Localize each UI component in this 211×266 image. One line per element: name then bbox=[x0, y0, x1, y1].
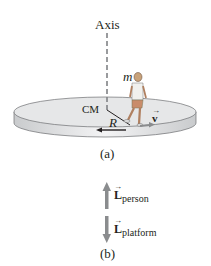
vector-arrow-icon: → bbox=[152, 107, 160, 115]
axis-label: Axis bbox=[95, 18, 120, 31]
L-platform-symbol: →L bbox=[114, 222, 122, 236]
velocity-label: →v bbox=[152, 113, 158, 124]
L-person-arrow bbox=[103, 182, 112, 209]
mass-label: m bbox=[123, 70, 132, 83]
caption-a: (a) bbox=[100, 147, 114, 160]
L-platform-arrow bbox=[103, 216, 112, 243]
vector-arrow-icon: → bbox=[114, 217, 122, 225]
radius-label: R bbox=[109, 116, 117, 129]
diagram-canvas bbox=[0, 0, 211, 266]
L-person-label: →Lperson bbox=[114, 189, 149, 204]
platform-disc bbox=[14, 97, 196, 137]
L-platform-subscript: platform bbox=[122, 227, 156, 238]
L-platform-label: →Lplatform bbox=[114, 223, 156, 238]
vector-arrow-icon: → bbox=[114, 183, 122, 191]
velocity-symbol: →v bbox=[152, 112, 158, 124]
cm-label: CM bbox=[82, 104, 99, 115]
caption-b: (b) bbox=[100, 247, 115, 260]
L-person-symbol: →L bbox=[114, 188, 122, 202]
L-person-subscript: person bbox=[122, 193, 149, 204]
